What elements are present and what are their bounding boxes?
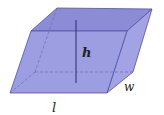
parallelepiped-diagram: h w l: [0, 0, 164, 115]
height-label: h: [82, 45, 91, 60]
front-face: [10, 31, 127, 93]
width-label: w: [124, 80, 135, 94]
length-label: l: [52, 100, 56, 115]
